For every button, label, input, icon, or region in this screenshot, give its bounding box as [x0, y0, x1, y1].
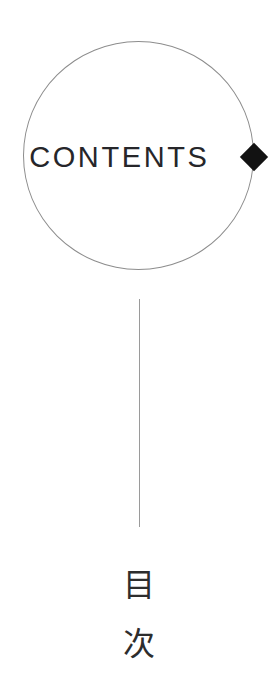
- japanese-title-char-ji: 次: [0, 615, 278, 674]
- page-title: CONTENTS: [0, 140, 236, 174]
- table-of-contents-page: CONTENTS 目 次: [0, 0, 278, 676]
- japanese-title-char-moku: 目: [0, 556, 278, 615]
- vertical-divider: [139, 299, 140, 527]
- japanese-title: 目 次: [0, 556, 278, 674]
